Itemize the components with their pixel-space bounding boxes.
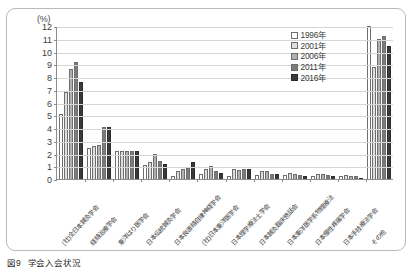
bar [191,162,195,179]
bar [316,174,320,179]
y-axis-tick-label: 7 [47,86,52,95]
bar [321,174,325,179]
gridline [57,129,393,130]
bar [107,127,111,179]
bar [237,170,241,179]
gridline [57,167,393,168]
bar [326,175,330,179]
y-axis-tick-mark [54,40,57,41]
bar [158,161,162,179]
y-axis-tick-label: 12 [42,23,52,32]
chart-legend: 1996年2001年2006年2011年2016年 [291,31,326,82]
gridline [57,78,393,79]
bar [303,176,307,179]
y-axis-tick-mark [54,78,57,79]
bar [260,171,264,179]
legend-item[interactable]: 2016年 [291,74,326,82]
y-axis-tick-mark [54,53,57,54]
legend-item[interactable]: 2006年 [291,52,326,60]
caption-title: 学会入会状況 [28,258,81,268]
bar [293,174,297,179]
legend-label: 2011年 [301,63,326,71]
bar [87,148,91,179]
bar [247,169,251,179]
y-axis-tick-label: 11 [43,35,52,44]
bar [227,176,231,179]
bar [344,175,348,179]
y-axis-tick-mark [54,155,57,156]
bar [275,174,279,179]
y-axis-tick-label: 4 [47,125,52,134]
bar [283,175,287,179]
bar [270,174,274,179]
y-axis-tick-label: 3 [47,137,52,146]
bar [331,176,335,179]
caption-number: 図9 [7,258,21,268]
bar [181,169,185,179]
bar [377,39,381,179]
y-axis-tick-mark [54,91,57,92]
bar [349,176,353,179]
x-axis-label: 経絡治療学会 [88,215,119,247]
y-axis-tick-mark [54,129,57,130]
legend-label: 2001年 [301,42,326,50]
gridline [57,53,393,54]
legend-item[interactable]: 1996年 [291,31,326,39]
bar [153,154,157,180]
bar [387,46,391,179]
legend-swatch-icon [291,42,298,49]
gridline [57,155,393,156]
y-axis-tick-mark [54,167,57,168]
bar [97,145,101,179]
y-axis-tick-mark [54,142,57,143]
bar [79,82,83,179]
legend-item[interactable]: 2001年 [291,42,326,50]
y-axis-tick-label: 9 [47,61,52,70]
gridline [57,65,393,66]
bar [255,175,259,179]
bar [339,176,343,179]
bar [354,176,358,179]
bar [219,173,223,179]
bar [214,171,218,179]
bar [288,173,292,179]
plot-area-wrapper: 0123456789101112 [34,27,393,180]
bar [102,127,106,179]
bar [242,169,246,179]
y-axis-tick-label: 0 [47,176,52,185]
legend-swatch-icon [291,64,298,71]
gridline [57,116,393,117]
bar [69,69,73,179]
legend-label: 2006年 [301,52,326,60]
y-axis-tick-mark [54,116,57,117]
bar [372,67,376,179]
bar [59,114,63,179]
x-axis-label: 日本良導絡自律神経学会 [172,193,223,247]
y-axis-tick-label: 8 [47,74,52,83]
bar [311,176,315,179]
y-axis-tick-label: 6 [47,99,52,108]
bar [148,162,152,179]
y-axis-tick-label: 1 [47,163,52,172]
figure-root: (%) 0123456789101112 (社)全日本鍼灸学会経絡治療学会東洋は… [0,0,412,271]
bar [74,62,78,179]
bar [265,171,269,179]
bar [199,174,203,179]
gridline [57,104,393,105]
bar [64,92,68,179]
plot-area [56,27,393,180]
bar [163,164,167,179]
y-axis-tick-label: 5 [47,112,52,121]
legend-label: 1996年 [301,31,326,39]
x-axis-labels: (社)全日本鍼灸学会経絡治療学会東洋はり医学会日本伝統鍼灸学会日本良導絡自律神経… [56,181,393,247]
gridline [57,142,393,143]
y-axis-tick-mark [54,104,57,105]
bar [186,168,190,179]
bar [382,36,386,179]
y-axis-tick-mark [54,27,57,28]
y-axis-tick-mark [54,65,57,66]
legend-item[interactable]: 2011年 [291,63,326,71]
bar [232,169,236,179]
y-axis: 0123456789101112 [34,27,54,180]
figure-caption: 図9学会入会状況 [7,256,81,268]
